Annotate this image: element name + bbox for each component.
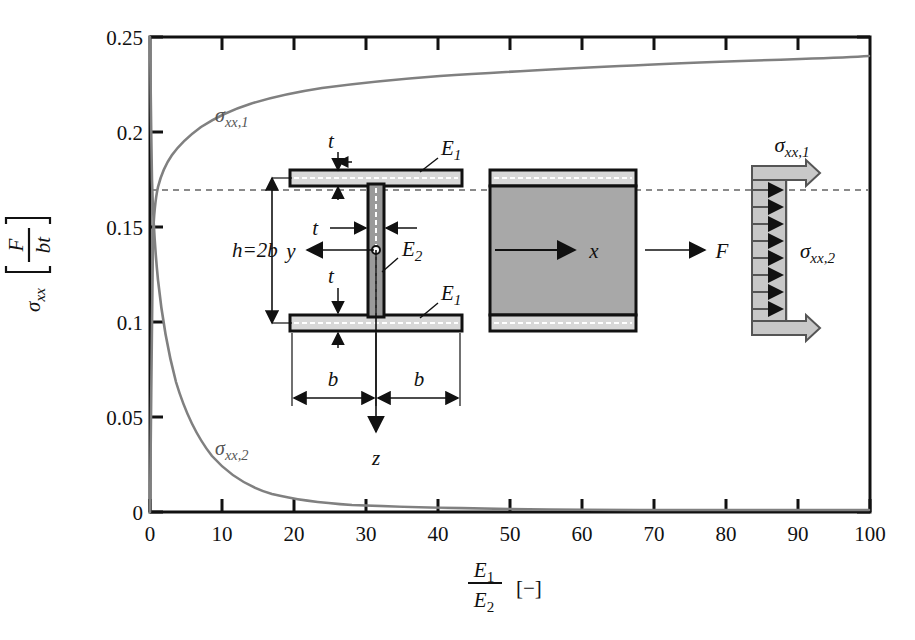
y-tick-label-5: 0 [133, 501, 144, 525]
y-tick-label-2: 0.15 [106, 216, 143, 240]
y-tick-label-0: 0.25 [106, 26, 143, 50]
web-modulus-subscript: 2 [415, 248, 423, 264]
stress-sigma-1-subscript: xx,1 [784, 144, 810, 160]
y-tick-label-4: 0.05 [106, 406, 143, 430]
z-axis-letter: z [371, 446, 380, 470]
x-axis-letter: x [588, 239, 599, 263]
x-tick-label-10: 10 [212, 522, 233, 546]
x-tick-label-50: 50 [500, 522, 521, 546]
x-tick-label-60: 60 [572, 522, 593, 546]
x-tick-label-0: 0 [145, 522, 156, 546]
y-axis-unit-denominator: bt [31, 236, 55, 254]
top-flange-modulus-symbol: E [440, 136, 454, 160]
stress-web-region [752, 180, 786, 321]
width-right-label: b [414, 367, 425, 391]
y-axis-sigma-sub: xx [32, 288, 48, 303]
x-tick-label-20: 20 [284, 522, 305, 546]
x-axis-den: E [473, 588, 487, 612]
top-flange-modulus-subscript: 1 [454, 147, 462, 163]
x-tick-label-80: 80 [716, 522, 737, 546]
bottom-flange-modulus-symbol: E [440, 281, 454, 305]
width-left-label: b [328, 367, 339, 391]
stress-sigma-2-subscript: xx,2 [809, 250, 835, 266]
height-label: h=2b [232, 238, 278, 262]
x-axis-unit: [−] [516, 576, 542, 600]
sigma-xx-2-subscript: xx,2 [224, 447, 249, 463]
x-tick-label-40: 40 [428, 522, 449, 546]
x-tick-label-100: 100 [854, 522, 886, 546]
x-tick-label-70: 70 [644, 522, 665, 546]
y-axis-unit-numerator: F [4, 238, 28, 252]
figure-root: 0.25 0.2 0.15 0.1 0.05 0 σxx F bt [0, 0, 915, 640]
y-tick-label-1: 0.2 [117, 121, 143, 145]
y-tick-label-3: 0.1 [117, 311, 143, 335]
y-axis-letter: y [284, 239, 296, 263]
chart-svg: 0.25 0.2 0.15 0.1 0.05 0 σxx F bt [0, 0, 915, 640]
bottom-flange-modulus-subscript: 1 [454, 292, 462, 308]
web-modulus-symbol: E [401, 237, 415, 261]
force-label: F [715, 239, 729, 263]
x-axis-den-sub: 2 [487, 599, 495, 615]
x-axis-num: E [473, 558, 487, 582]
x-tick-label-90: 90 [788, 522, 809, 546]
sigma-xx-1-subscript: xx,1 [224, 114, 249, 130]
x-tick-label-30: 30 [356, 522, 377, 546]
